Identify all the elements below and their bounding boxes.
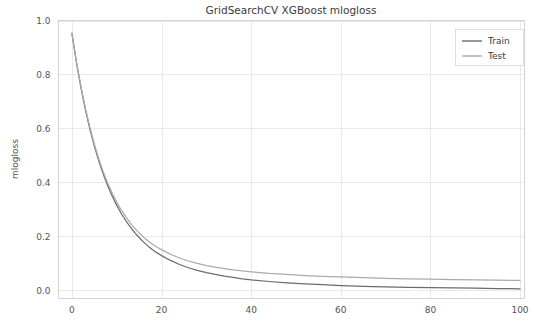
x-tick-label: 20 [156, 305, 168, 315]
figure-background [0, 0, 534, 332]
y-tick-label: 1.0 [36, 16, 51, 26]
chart-legend[interactable]: TrainTest [456, 30, 524, 66]
mlogloss-line-chart: GridSearchCV XGBoost mlogloss 0204060801… [0, 0, 534, 332]
legend-label-test[interactable]: Test [487, 51, 506, 61]
y-tick-label: 0.2 [36, 232, 50, 242]
x-tick-label: 100 [511, 305, 528, 315]
y-tick-label: 0.0 [36, 286, 51, 296]
x-tick-label: 0 [69, 305, 75, 315]
x-tick-label: 40 [245, 305, 257, 315]
x-tick-label: 80 [425, 305, 437, 315]
chart-title: GridSearchCV XGBoost mlogloss [206, 4, 377, 16]
chart-figure: GridSearchCV XGBoost mlogloss 0204060801… [0, 0, 534, 332]
y-axis-label: mlogloss [10, 139, 20, 179]
x-tick-label: 60 [335, 305, 347, 315]
y-tick-label: 0.4 [36, 178, 51, 188]
y-tick-label: 0.6 [36, 124, 51, 134]
legend-label-train[interactable]: Train [487, 36, 510, 46]
y-tick-label: 0.8 [36, 70, 51, 80]
